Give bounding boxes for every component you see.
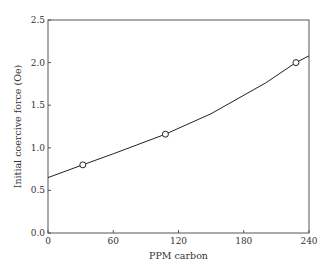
- data-point-marker: [162, 131, 168, 137]
- x-tick-label: 0: [45, 236, 51, 246]
- y-tick-label: 1.5: [31, 100, 46, 110]
- y-tick-label: 1.0: [31, 143, 46, 153]
- x-axis-ticks: 060120180240: [45, 230, 318, 246]
- y-axis-label: Initial coercive force (Oe): [12, 65, 23, 189]
- data-points: [80, 60, 299, 168]
- y-tick-label: 2.0: [31, 58, 46, 68]
- data-curve: [48, 56, 309, 178]
- chart: 0.00.51.01.52.02.5 060120180240 PPM carb…: [0, 0, 330, 272]
- data-point-marker: [80, 162, 86, 168]
- x-tick-label: 180: [235, 236, 252, 246]
- y-tick-label: 0.0: [31, 228, 46, 238]
- y-tick-label: 0.5: [31, 185, 46, 195]
- x-tick-label: 120: [170, 236, 187, 246]
- data-point-marker: [293, 60, 299, 66]
- x-axis-label: PPM carbon: [149, 250, 208, 261]
- y-tick-label: 2.5: [31, 15, 46, 25]
- x-tick-label: 60: [108, 236, 120, 246]
- x-tick-label: 240: [300, 236, 317, 246]
- plot-frame: [48, 20, 309, 233]
